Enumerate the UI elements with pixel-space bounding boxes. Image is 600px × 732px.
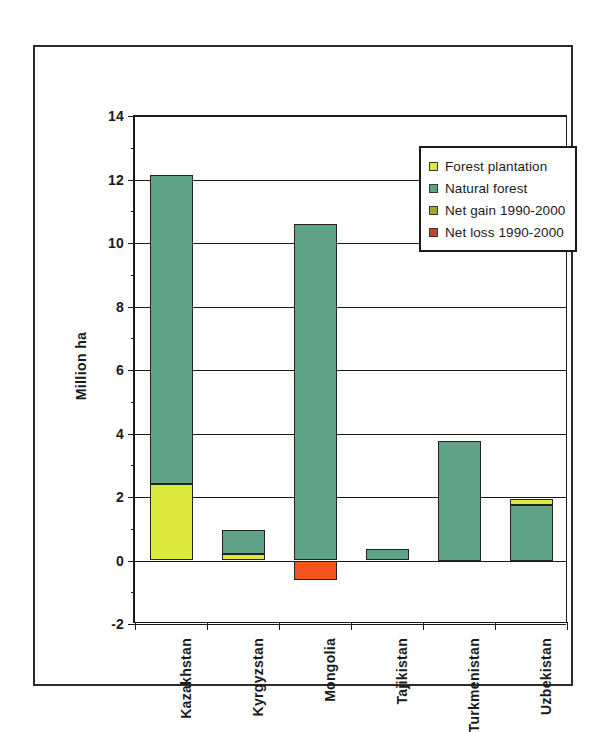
y-tick-label-12: 12 — [108, 172, 124, 188]
gridline-2 — [135, 497, 566, 498]
legend-item[interactable]: Natural forest — [429, 177, 565, 199]
y-tick-label-2: 2 — [116, 489, 124, 505]
legend-swatch-icon — [429, 162, 438, 171]
y-tick-12 — [128, 180, 135, 181]
gridline-0 — [135, 561, 566, 562]
y-minor-tick — [131, 465, 135, 466]
gridline-6 — [135, 370, 566, 371]
y-minor-tick — [131, 529, 135, 530]
y-tick-8 — [128, 307, 135, 308]
y-minor-tick — [131, 592, 135, 593]
y-tick-4 — [128, 434, 135, 435]
y-minor-tick — [131, 275, 135, 276]
y-tick-label-14: 14 — [108, 108, 124, 124]
gridline-4 — [135, 434, 566, 435]
bar-segment-natural-forest — [438, 441, 481, 560]
x-axis-label-kazakhstan: Kazakhstan — [178, 638, 194, 719]
y-minor-tick — [131, 402, 135, 403]
x-axis-label-mongolia: Mongolia — [322, 638, 338, 702]
legend-item[interactable]: Net gain 1990-2000 — [429, 199, 565, 221]
y-tick-label-4: 4 — [116, 426, 124, 442]
chart-frame: Million ha -202468101214 KazakhstanKyrgy… — [33, 45, 573, 686]
bar-segment-natural-forest — [150, 175, 193, 485]
bar-segment-natural-forest — [294, 224, 337, 561]
x-axis-label-uzbekistan: Uzbekistan — [538, 638, 554, 715]
x-tick — [279, 622, 280, 630]
y-tick-0 — [128, 561, 135, 562]
legend-swatch-icon — [429, 184, 438, 193]
legend-label: Net gain 1990-2000 — [445, 203, 565, 218]
y-tick-label--2: -2 — [111, 616, 124, 632]
bar-segment-natural-forest — [222, 530, 265, 554]
x-tick — [135, 622, 136, 630]
chart-legend: Forest plantationNatural forestNet gain … — [419, 146, 577, 252]
y-tick-label-0: 0 — [116, 553, 124, 569]
y-tick-10 — [128, 243, 135, 244]
y-tick-14 — [128, 116, 135, 117]
y-tick-label-8: 8 — [116, 299, 124, 315]
bar-segment-forest-plantation — [510, 499, 553, 505]
bar-segment-natural-forest — [366, 549, 409, 560]
y-tick-2 — [128, 497, 135, 498]
legend-item[interactable]: Forest plantation — [429, 155, 565, 177]
bar-group-kazakhstan[interactable] — [150, 116, 193, 622]
y-tick--2 — [128, 624, 135, 625]
y-minor-tick — [131, 148, 135, 149]
x-axis-label-turkmenistan: Turkmenistan — [466, 638, 482, 732]
y-minor-tick — [131, 338, 135, 339]
y-tick-label-6: 6 — [116, 362, 124, 378]
gridline-8 — [135, 307, 566, 308]
x-tick — [567, 622, 568, 630]
bar-segment-natural-forest — [510, 505, 553, 561]
y-axis-title: Million ha — [73, 331, 89, 400]
bar-segment-forest-plantation — [222, 554, 265, 560]
bar-group-mongolia[interactable] — [294, 116, 337, 622]
x-tick — [351, 622, 352, 630]
legend-label: Forest plantation — [445, 159, 547, 174]
gridline-14 — [135, 116, 566, 117]
bar-segment-forest-plantation — [150, 484, 193, 560]
legend-swatch-icon — [429, 228, 438, 237]
bar-group-kyrgyzstan[interactable] — [222, 116, 265, 622]
y-tick-label-10: 10 — [108, 235, 124, 251]
y-minor-tick — [131, 211, 135, 212]
bar-group-tajikistan[interactable] — [366, 116, 409, 622]
x-tick — [207, 622, 208, 630]
bar-segment-net-loss — [294, 561, 337, 580]
legend-label: Natural forest — [445, 181, 527, 196]
x-tick — [495, 622, 496, 630]
legend-label: Net loss 1990-2000 — [445, 225, 564, 240]
x-axis-label-tajikistan: Tajikistan — [394, 638, 410, 705]
y-tick-6 — [128, 370, 135, 371]
legend-swatch-icon — [429, 206, 438, 215]
x-tick — [423, 622, 424, 630]
legend-item[interactable]: Net loss 1990-2000 — [429, 221, 565, 243]
x-axis-label-kyrgyzstan: Kyrgyzstan — [250, 638, 266, 716]
